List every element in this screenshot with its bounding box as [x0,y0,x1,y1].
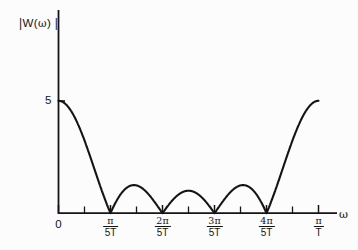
x-tick-numerator: 4π [258,216,274,226]
x-tick-label-pi-t: π T [313,216,323,238]
y-axis-title-close: ) [47,17,51,29]
x-tick-label-pi-5t: π 5T [103,216,119,238]
x-tick-numerator: π [313,216,323,226]
magnitude-curve [59,101,319,213]
figure-container: |W(ω) | 5 ω 0 π 5T 2π 5T 3π 5T 4π 5T π T [0,0,358,250]
y-axis-title-text: W( [23,17,38,29]
x-tick-denominator: 5T [258,226,274,238]
x-tick-label-4pi-5t: 4π 5T [258,216,274,238]
x-tick-label-3pi-5t: 3π 5T [206,216,222,238]
x-tick-marks-minor [85,207,293,214]
x-tick-label-0: 0 [55,219,61,231]
x-tick-denominator: 5T [103,226,119,238]
x-tick-denominator: 5T [206,226,222,238]
x-tick-numerator: 2π [154,216,170,226]
y-axis-title-bar-right: | [55,16,59,30]
x-tick-label-2pi-5t: 2π 5T [154,216,170,238]
x-tick-denominator: 5T [154,226,170,238]
y-tick-label-5: 5 [45,95,51,107]
x-tick-denominator: T [313,226,323,238]
x-axis-title: ω [339,209,348,220]
omega-symbol: ω [38,17,47,29]
y-axis-title: |W(ω) | [19,17,58,30]
x-tick-numerator: 3π [206,216,222,226]
x-tick-numerator: π [103,216,119,226]
plot-area [0,0,358,250]
